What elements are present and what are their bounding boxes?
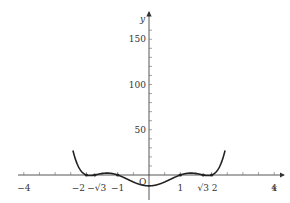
- function-plot: x y O −4−2−√3−11√324 50100150: [0, 0, 290, 203]
- x-tick-label: −√3: [87, 183, 106, 193]
- x-tick-label: −2: [72, 183, 85, 193]
- x-tick-label: √3: [197, 183, 209, 193]
- y-tick-labels: 50100150: [129, 34, 146, 135]
- y-axis-label: y: [139, 14, 146, 24]
- y-tick-label: 100: [129, 80, 146, 90]
- x-tick-label: −4: [17, 183, 31, 193]
- x-tick-label: 2: [212, 183, 218, 193]
- x-tick-label: −1: [111, 183, 124, 193]
- y-tick-label: 150: [129, 34, 146, 44]
- x-tick-labels: −4−2−√3−11√324: [17, 183, 277, 193]
- y-tick-label: 50: [135, 125, 147, 135]
- x-tick-label: 1: [177, 183, 183, 193]
- x-tick-label: 4: [271, 183, 277, 193]
- origin-label: O: [139, 177, 146, 187]
